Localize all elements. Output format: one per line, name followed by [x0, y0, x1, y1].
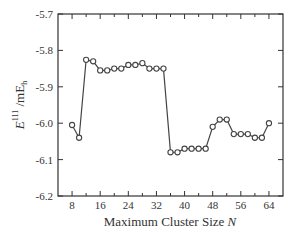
y-tick-label: -6.1	[36, 154, 53, 166]
data-point-marker	[168, 150, 173, 155]
y-tick-label: -6.0	[36, 117, 54, 129]
data-point-marker	[210, 124, 215, 129]
chart: 816243240485664-5.7-5.8-5.9-6.0-6.1-6.2 …	[0, 0, 295, 232]
x-tick-label: 40	[179, 199, 191, 211]
data-point-marker	[154, 66, 159, 71]
data-series	[69, 57, 271, 155]
data-point-marker	[161, 66, 166, 71]
x-axis-title: Maximum Cluster Size N	[104, 214, 238, 229]
x-tick-label: 8	[69, 199, 75, 211]
data-point-marker	[105, 68, 110, 73]
data-point-marker	[112, 66, 117, 71]
x-tick-label: 32	[151, 199, 162, 211]
data-point-marker	[133, 62, 138, 67]
y-tick-label: -6.2	[36, 190, 53, 202]
data-point-marker	[231, 132, 236, 137]
data-point-marker	[189, 146, 194, 151]
y-tick-label: -5.9	[36, 81, 54, 93]
data-point-marker	[196, 146, 201, 151]
x-tick-label: 64	[263, 199, 275, 211]
data-point-marker	[266, 121, 271, 126]
plot-frame	[58, 14, 283, 196]
data-point-marker	[224, 117, 229, 122]
data-point-marker	[91, 59, 96, 64]
data-point-marker	[245, 132, 250, 137]
data-point-marker	[217, 117, 222, 122]
tick-labels: 816243240485664-5.7-5.8-5.9-6.0-6.1-6.2	[36, 8, 275, 211]
series-line	[72, 60, 269, 152]
data-point-marker	[147, 66, 152, 71]
data-point-marker	[203, 146, 208, 151]
data-point-marker	[238, 132, 243, 137]
data-point-marker	[69, 122, 74, 127]
data-point-marker	[84, 57, 89, 62]
x-tick-label: 24	[123, 199, 135, 211]
x-tick-label: 16	[95, 199, 107, 211]
data-point-marker	[252, 135, 257, 140]
data-point-marker	[182, 146, 187, 151]
y-tick-label: -5.8	[36, 44, 54, 56]
x-tick-label: 48	[207, 199, 219, 211]
x-tick-label: 56	[235, 199, 247, 211]
data-point-marker	[175, 150, 180, 155]
data-point-marker	[98, 68, 103, 73]
data-point-marker	[140, 61, 145, 66]
axis-ticks	[58, 14, 283, 196]
y-axis-title: E111 /mEh	[11, 81, 29, 130]
data-point-marker	[126, 62, 131, 67]
data-point-marker	[259, 135, 264, 140]
data-point-marker	[76, 135, 81, 140]
y-tick-label: -5.7	[36, 8, 54, 20]
data-point-marker	[119, 66, 124, 71]
